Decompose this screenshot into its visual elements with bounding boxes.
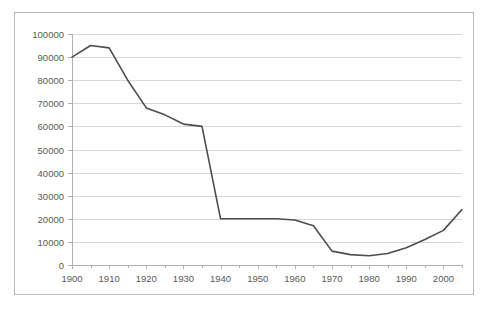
x-tick-label: 1910 [99, 273, 120, 284]
y-tick-label: 0 [59, 260, 64, 271]
y-tick-label: 50000 [38, 145, 64, 156]
y-tick-label: 90000 [38, 52, 64, 63]
x-tick-label: 1920 [136, 273, 157, 284]
y-tick-label: 30000 [38, 191, 64, 202]
plot-area-background [72, 34, 462, 265]
x-tick-label: 1970 [321, 273, 342, 284]
y-tick-label: 40000 [38, 168, 64, 179]
y-tick-label: 10000 [38, 237, 64, 248]
x-tick-label: 1990 [396, 273, 417, 284]
y-tick-label: 70000 [38, 98, 64, 109]
x-tick-label: 1960 [284, 273, 305, 284]
x-tick-label: 1930 [173, 273, 194, 284]
y-tick-label: 100000 [32, 29, 64, 40]
x-tick-label: 1980 [359, 273, 380, 284]
y-tick-label: 60000 [38, 121, 64, 132]
chart-figure: 0100002000030000400005000060000700008000… [0, 0, 490, 314]
y-tick-label: 80000 [38, 75, 64, 86]
x-tick-label: 1940 [210, 273, 231, 284]
line-chart: 0100002000030000400005000060000700008000… [0, 0, 490, 314]
x-tick-label: 2000 [433, 273, 454, 284]
x-tick-label: 1950 [247, 273, 268, 284]
y-tick-label: 20000 [38, 214, 64, 225]
x-tick-label: 1900 [61, 273, 82, 284]
